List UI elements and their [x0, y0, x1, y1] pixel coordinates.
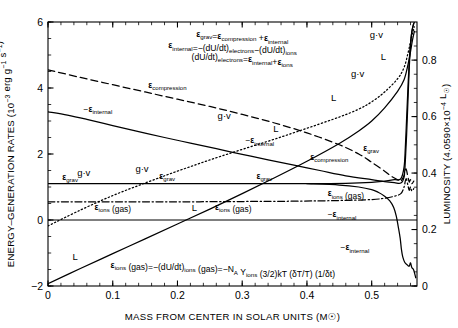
- y-right-tick-label: 0: [422, 280, 428, 292]
- curve-label: L: [381, 51, 386, 62]
- y-axis-title: ENERGY–GENERATION RATES (10−3 erg g−1 s−…: [0, 41, 16, 267]
- y-right-tick-label: 0.6: [422, 110, 437, 122]
- x-axis-title: MASS FROM CENTER IN SOLAR UNITS (M☉): [125, 311, 341, 322]
- x-tick-label: 0.3: [235, 289, 250, 301]
- y-right-tick-label: 0.2: [422, 223, 437, 235]
- curve-label: g·v: [77, 167, 90, 178]
- curve-label: g·v: [351, 68, 364, 79]
- curve-label: L: [273, 123, 278, 134]
- curve-label: g·v: [135, 163, 148, 174]
- chart-svg: 00.10.20.30.40.5−2024600.20.40.60.8εcomp…: [0, 0, 458, 328]
- curve-label: L: [73, 251, 78, 262]
- y-tick-label: 0: [37, 214, 43, 226]
- x-tick-label: 0: [45, 289, 51, 301]
- curve-label: L: [331, 92, 336, 103]
- y-tick-label: −2: [31, 280, 43, 292]
- x-tick-label: 0.1: [105, 289, 120, 301]
- x-tick-label: 0.4: [300, 289, 315, 301]
- curve-label: g·v: [218, 110, 231, 121]
- y-tick-label: 2: [37, 148, 43, 160]
- curve-label: g·v: [370, 29, 383, 40]
- y-tick-label: 4: [37, 82, 43, 94]
- x-tick-label: 0.5: [364, 289, 379, 301]
- curve-label: L: [192, 202, 197, 213]
- figure-root: 00.10.20.30.40.5−2024600.20.40.60.8εcomp…: [0, 0, 458, 328]
- y-right-tick-label: 0.4: [422, 167, 437, 179]
- y-right-tick-label: 0.8: [422, 54, 437, 66]
- x-tick-label: 0.2: [170, 289, 185, 301]
- y-tick-label: 6: [37, 16, 43, 28]
- y-right-axis-title: LUMINOSITY (4.0590×10−4 L☉): [437, 84, 452, 225]
